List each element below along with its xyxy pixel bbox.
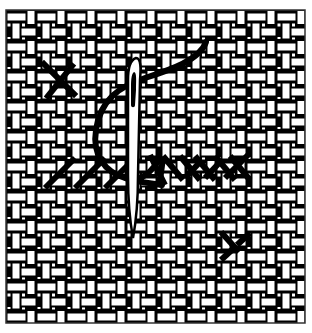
cross-stitch-illustration: Cross-stitch needlework on woven canvas [0, 0, 312, 333]
